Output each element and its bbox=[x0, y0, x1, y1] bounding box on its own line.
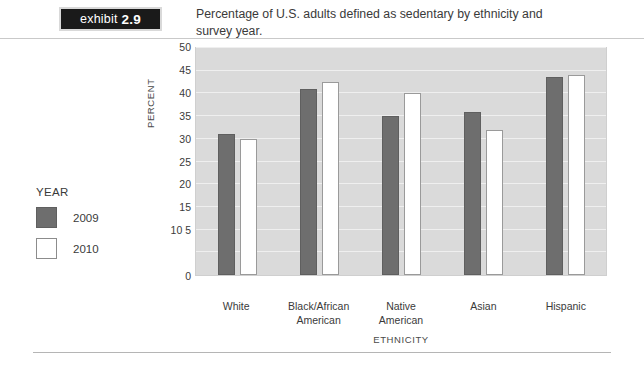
y-axis-tick-45: 45 bbox=[179, 64, 191, 76]
exhibit-caption: Percentage of U.S. adults defined as sed… bbox=[196, 6, 576, 39]
bar-2009 bbox=[300, 89, 317, 275]
bar-2009 bbox=[382, 116, 399, 275]
bar-2009 bbox=[546, 77, 563, 275]
bar-2010 bbox=[404, 93, 421, 275]
bar-2009 bbox=[464, 112, 481, 275]
y-axis-tick-labels: 010 51520253035404550 bbox=[165, 40, 191, 283]
x-axis-title: ETHNICITY bbox=[195, 334, 607, 345]
legend-label-2010: 2010 bbox=[73, 243, 99, 255]
x-axis-label: NativeAmerican bbox=[360, 300, 442, 327]
legend-item-2009: 2009 bbox=[36, 207, 99, 228]
legend-title: YEAR bbox=[36, 186, 99, 198]
bar-group bbox=[278, 48, 360, 275]
exhibit-badge: exhibit 2.9 bbox=[59, 7, 162, 31]
x-axis-label: Asian bbox=[442, 300, 524, 327]
bar-group bbox=[196, 48, 278, 275]
y-axis-tick-25: 25 bbox=[179, 156, 191, 168]
legend-swatch-2009 bbox=[36, 207, 57, 228]
bar-2010 bbox=[240, 139, 257, 275]
bar-2010 bbox=[568, 75, 585, 275]
y-axis-tick-10: 10 5 bbox=[171, 224, 191, 236]
bar-2010 bbox=[322, 82, 339, 275]
exhibit-number: 2.9 bbox=[122, 12, 141, 27]
exhibit-label: exhibit bbox=[80, 12, 118, 26]
y-axis-title: PERCENT bbox=[145, 78, 156, 128]
bar-group bbox=[524, 48, 606, 275]
chart-legend: YEAR 2009 2010 bbox=[36, 186, 99, 269]
legend-label-2009: 2009 bbox=[73, 212, 99, 224]
bar-group bbox=[442, 48, 524, 275]
y-axis-tick-30: 30 bbox=[179, 133, 191, 145]
y-axis-tick-50: 50 bbox=[179, 41, 191, 53]
y-axis-tick-20: 20 bbox=[179, 178, 191, 190]
x-axis-label: Hispanic bbox=[525, 300, 607, 327]
bar-group bbox=[360, 48, 442, 275]
y-axis-tick-40: 40 bbox=[179, 87, 191, 99]
y-axis-tick-0: 0 bbox=[185, 270, 191, 282]
y-axis-tick-35: 35 bbox=[179, 110, 191, 122]
footer-divider bbox=[33, 352, 611, 353]
x-axis-tick-labels: WhiteBlack/AfricanAmericanNativeAmerican… bbox=[195, 300, 607, 327]
legend-item-2010: 2010 bbox=[36, 238, 99, 259]
bar-2009 bbox=[218, 134, 235, 275]
chart-bars bbox=[196, 48, 606, 275]
bar-2010 bbox=[486, 130, 503, 275]
header-divider bbox=[0, 38, 644, 39]
legend-swatch-2010 bbox=[36, 238, 57, 259]
chart-plot-area bbox=[195, 47, 607, 276]
x-axis-label: Black/AfricanAmerican bbox=[277, 300, 359, 327]
y-axis-tick-15: 15 bbox=[179, 201, 191, 213]
x-axis-label: White bbox=[195, 300, 277, 327]
